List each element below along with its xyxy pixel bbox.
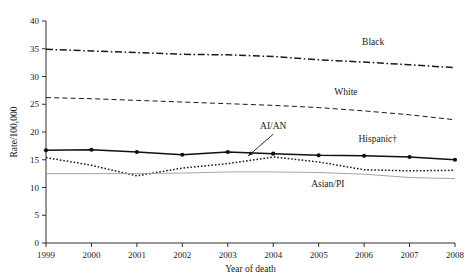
series-label-ai-an: AI/AN [260, 121, 287, 131]
axes-group: 0510152025303540 19992000200120022003200… [30, 16, 465, 259]
series-line-asian-pi [46, 172, 455, 179]
y-tick-label: 10 [30, 183, 40, 193]
data-point-marker [317, 153, 321, 157]
y-tick-label: 5 [35, 210, 40, 220]
y-tick-label: 35 [30, 44, 40, 54]
x-tick-label: 2000 [82, 250, 101, 260]
series-label-white: White [334, 87, 357, 97]
x-axis-title: Year of death [225, 264, 276, 274]
series-line-ai-an [46, 157, 455, 176]
line-chart-canvas: 0510152025303540 19992000200120022003200… [0, 0, 473, 277]
series-line-white [46, 98, 455, 120]
data-point-marker [271, 152, 275, 156]
x-tick-label: 2005 [310, 250, 329, 260]
series-label-black: Black [362, 37, 384, 47]
x-tick-label: 2004 [264, 250, 283, 260]
data-point-marker [453, 158, 457, 162]
data-series-group [46, 49, 455, 178]
data-point-marker [180, 153, 184, 157]
x-tick-label: 2002 [173, 250, 191, 260]
y-tick-label: 25 [30, 99, 40, 109]
x-tick-label: 2007 [401, 250, 420, 260]
series-label-asian-pi: Asian/PI [311, 179, 344, 189]
x-tick-label: 2003 [219, 250, 238, 260]
y-tick-label: 15 [30, 155, 40, 165]
y-tick-label: 0 [35, 238, 40, 248]
y-tick-label: 30 [30, 72, 40, 82]
data-point-marker [226, 150, 230, 154]
x-axis-ticks: 1999200020012002200320042005200620072008 [37, 243, 465, 260]
x-tick-label: 1999 [37, 250, 56, 260]
y-tick-label: 40 [30, 16, 40, 26]
data-point-marker [89, 148, 93, 152]
x-tick-label: 2006 [355, 250, 374, 260]
x-tick-label: 2008 [446, 250, 465, 260]
y-tick-label: 20 [30, 127, 40, 137]
data-point-marker [135, 150, 139, 154]
data-point-marker [362, 154, 366, 158]
series-label-hispanic: Hispanic† [358, 134, 397, 144]
data-point-marker [44, 148, 48, 152]
chart-figure: 0510152025303540 19992000200120022003200… [0, 0, 473, 277]
series-line-black [46, 49, 455, 67]
data-point-marker [407, 155, 411, 159]
y-axis-title: Rate/100,000 [9, 106, 19, 157]
x-tick-label: 2001 [128, 250, 146, 260]
y-axis-ticks: 0510152025303540 [30, 16, 46, 248]
